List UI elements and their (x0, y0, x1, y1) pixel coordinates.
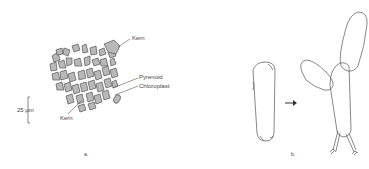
colony-cluster (50, 40, 122, 112)
label-kern-top: Kern (132, 35, 145, 42)
cell-right-germling (301, 12, 367, 155)
caption-a: a. (84, 151, 88, 158)
scale-bar-label: 25 μm (17, 107, 34, 114)
label-pyrenoid: Pyrenoid (139, 74, 163, 81)
label-chloroplast: Chloroplast (139, 83, 169, 90)
illustration-canvas (0, 0, 369, 169)
arrow-icon (285, 100, 297, 106)
label-kern-bottom: Kern (60, 115, 73, 122)
caption-b: b. (291, 151, 295, 158)
cell-left (253, 62, 275, 141)
